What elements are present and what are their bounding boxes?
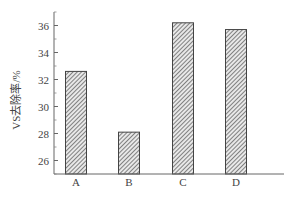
y-tick-label: 30	[38, 101, 50, 113]
x-category-label: B	[125, 176, 132, 188]
bar-chart: 262830323436ABCD VS去除率/%	[0, 0, 294, 202]
bars-group	[66, 23, 247, 174]
x-category-label: C	[179, 176, 186, 188]
y-tick-label: 28	[38, 128, 50, 140]
y-tick-label: 26	[38, 155, 50, 167]
bar-d	[226, 30, 247, 174]
bar-b	[119, 132, 140, 174]
x-category-label: D	[232, 176, 240, 188]
bar-c	[173, 23, 194, 174]
y-tick-label: 32	[38, 74, 49, 86]
bar-a	[66, 71, 87, 174]
y-tick-label: 34	[38, 47, 50, 59]
y-axis-title: VS去除率/%	[9, 70, 22, 129]
x-category-label: A	[72, 176, 80, 188]
y-tick-label: 36	[38, 20, 50, 32]
